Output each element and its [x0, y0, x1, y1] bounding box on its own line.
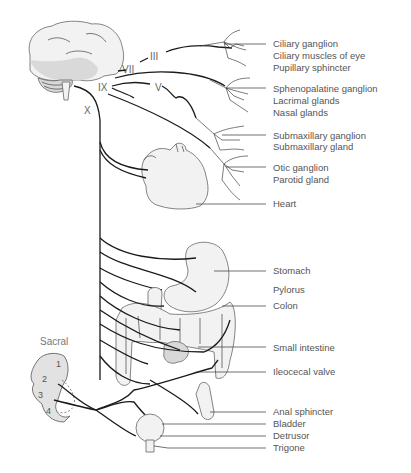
label-pylorus: Pylorus: [273, 284, 305, 295]
label-lacrimal-glands: Lacrimal glands: [273, 95, 340, 106]
nerve-label-vii: VII: [122, 64, 134, 75]
label-ciliary-ganglion: Ciliary ganglion: [273, 38, 338, 49]
label-colon: Colon: [273, 300, 298, 311]
sacrum-illustration: [31, 353, 74, 422]
label-heart: Heart: [273, 198, 297, 209]
label-otic-ganglion: Otic ganglion: [273, 162, 328, 173]
sacral-segment-3: 3: [38, 390, 43, 400]
parasympathetic-diagram: III VII IX V X: [0, 0, 411, 473]
nerve-label-x: X: [84, 105, 91, 116]
label-small-intestine: Small intestine: [273, 342, 335, 353]
sacral-segment-2: 2: [42, 374, 47, 384]
label-sphenopalatine-ganglion: Sphenopalatine ganglion: [273, 83, 378, 94]
brain-illustration: [29, 21, 123, 100]
sacral-segment-4: 4: [46, 406, 51, 416]
organ-labels: Ciliary ganglion Ciliary muscles of eye …: [273, 38, 378, 453]
label-bladder: Bladder: [273, 418, 306, 429]
label-submaxillary-ganglion: Submaxillary ganglion: [273, 130, 366, 141]
heart-illustration: [100, 142, 208, 209]
nerve-label-iii: III: [150, 51, 158, 62]
label-anal-sphincter: Anal sphincter: [273, 406, 333, 417]
label-ciliary-muscles: Ciliary muscles of eye: [273, 50, 365, 61]
bladder-illustration: [136, 414, 164, 452]
label-ileocecal-valve: Ileocecal valve: [273, 366, 335, 377]
pelvic-nerves: [54, 360, 218, 436]
label-nasal-glands: Nasal glands: [273, 107, 328, 118]
nerve-label-ix: IX: [98, 82, 108, 93]
stomach-illustration: [100, 238, 229, 312]
nerve-label-v: V: [155, 82, 162, 93]
label-stomach: Stomach: [273, 265, 311, 276]
label-detrusor: Detrusor: [273, 430, 309, 441]
sacral-segment-1: 1: [56, 359, 61, 369]
label-parotid-gland: Parotid gland: [273, 174, 329, 185]
label-submaxillary-gland: Submaxillary gland: [273, 141, 353, 152]
sacral-label: Sacral: [40, 336, 68, 347]
label-pupillary-sphincter: Pupillary sphincter: [273, 62, 351, 73]
label-trigone: Trigone: [273, 442, 305, 453]
